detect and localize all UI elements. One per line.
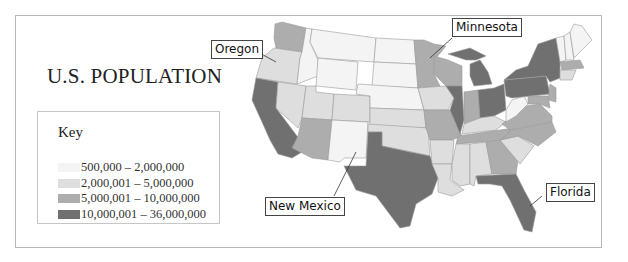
- state-ohio: [478, 84, 506, 118]
- florida-leader-line: [530, 196, 542, 206]
- state-connecticut: [560, 70, 576, 80]
- state-maine: [570, 24, 592, 58]
- state-new-york: [504, 38, 560, 82]
- us-map: [0, 0, 628, 262]
- state-colorado: [332, 94, 370, 122]
- state-massachusetts: [560, 60, 584, 70]
- state-washington: [274, 22, 306, 52]
- state-north-dakota: [374, 38, 416, 64]
- state-mississippi: [452, 144, 470, 186]
- callout-florida: Florida: [546, 183, 595, 202]
- state-south-dakota: [372, 62, 418, 88]
- state-arkansas: [430, 140, 454, 164]
- state-wisconsin: [434, 56, 462, 86]
- callout-oregon: Oregon: [211, 40, 263, 59]
- state-new-mexico: [328, 120, 368, 162]
- callout-minnesota: Minnesota: [452, 18, 522, 37]
- callout-new-mexico: New Mexico: [265, 197, 345, 216]
- state-new-jersey: [548, 84, 556, 102]
- state-utah: [302, 86, 334, 120]
- state-montana: [310, 29, 376, 62]
- state-wyoming: [316, 58, 358, 90]
- state-florida: [476, 174, 536, 232]
